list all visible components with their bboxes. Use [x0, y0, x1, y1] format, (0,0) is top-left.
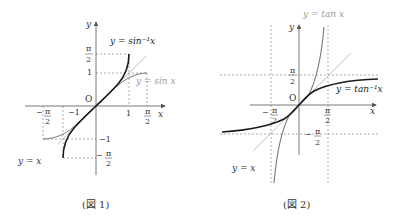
x-axis-label: x	[370, 106, 375, 116]
figure-2: y x O y = tan x y = tan⁻¹x y = x π2 π2 −…	[220, 9, 383, 185]
svg-text:2: 2	[325, 116, 330, 125]
y-axis-label: y	[85, 19, 92, 29]
svg-text:2: 2	[106, 159, 111, 168]
svg-text:π: π	[315, 127, 320, 136]
identity-label: y = x	[17, 156, 41, 166]
svg-text:2: 2	[272, 116, 277, 125]
svg-text:2: 2	[290, 77, 295, 86]
svg-text:π: π	[106, 149, 111, 158]
svg-text:−1: −1	[68, 108, 80, 117]
figure-1-caption: (図 1)	[82, 196, 109, 211]
arcsin-label: y = sin⁻¹x	[109, 36, 155, 46]
svg-text:π: π	[272, 106, 277, 115]
svg-text:2: 2	[45, 117, 50, 126]
svg-text:π: π	[290, 66, 295, 75]
svg-text:π: π	[45, 107, 50, 116]
svg-text:1: 1	[126, 109, 131, 118]
svg-text:−1: −1	[99, 135, 111, 144]
svg-text:π: π	[145, 107, 150, 116]
svg-text:2: 2	[315, 138, 320, 147]
svg-text:−: −	[262, 108, 269, 117]
diagram-canvas: y x O y = sin⁻¹x y = sin x y = x π2 1 1 …	[0, 0, 405, 219]
svg-text:−: −	[305, 130, 312, 139]
sin-label: y = sin x	[135, 76, 176, 86]
figure-2-caption: (図 2)	[283, 196, 310, 211]
svg-text:2: 2	[145, 117, 150, 126]
svg-text:−: −	[36, 108, 43, 117]
svg-text:π: π	[86, 44, 91, 53]
svg-text:2: 2	[86, 55, 91, 64]
svg-text:1: 1	[87, 68, 92, 77]
svg-text:−: −	[96, 151, 103, 160]
svg-text:π: π	[325, 106, 330, 115]
arctan-label: y = tan⁻¹x	[335, 84, 383, 94]
y-axis-label: y	[288, 22, 295, 32]
tan-label: y = tan x	[302, 9, 344, 19]
x-axis-label: x	[158, 109, 163, 119]
figure-1: y x O y = sin⁻¹x y = sin x y = x π2 1 1 …	[17, 19, 176, 175]
origin-label: O	[289, 93, 296, 103]
identity-label: y = x	[231, 163, 255, 173]
origin-label: O	[85, 94, 92, 104]
